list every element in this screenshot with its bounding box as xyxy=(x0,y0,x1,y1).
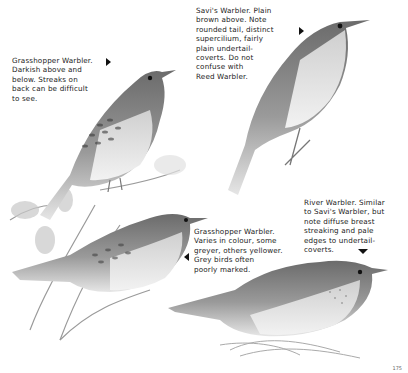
grass-nest xyxy=(220,341,360,358)
caption-river-warbler: River Warbler. Similar to Savi's Warbler… xyxy=(304,198,385,254)
caption-grasshopper-warbler-upper: Grasshopper Warbler. Darkish above and b… xyxy=(12,56,93,103)
page-number: 175 xyxy=(392,365,402,371)
pointer-down-icon xyxy=(358,249,368,254)
river-warbler-icon xyxy=(168,261,388,358)
caption-grasshopper-warbler-lower: Grasshopper Warbler. Varies in colour, s… xyxy=(194,227,283,274)
pointer-left-icon xyxy=(184,253,189,261)
pointer-right-icon xyxy=(106,58,111,66)
caption-savis-warbler: Savi's Warbler. Plain brown above. Note … xyxy=(196,6,274,81)
pointer-right-icon xyxy=(299,27,304,35)
